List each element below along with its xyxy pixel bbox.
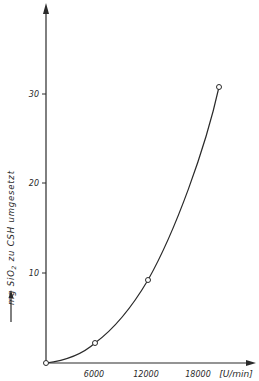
data-point [93,341,98,346]
x-ticks: 6000 12000 18000 [U/min] [84,369,253,379]
chart: 30 20 10 6000 12000 18000 [U/min] mg SiO… [0,0,259,381]
x-axis-label: [U/min] [219,369,253,379]
x-axis-arrow-icon [246,360,256,366]
y-tick-label: 30 [29,90,39,99]
y-tick-label: 10 [29,269,39,278]
y-tick-label: 20 [29,179,39,188]
y-ticks: 30 20 10 [29,90,46,278]
x-tick-label: 18000 [185,370,210,379]
y-axis-label-group: mg SiO2 zu CSH umgesetzt [6,170,17,305]
x-tick-label: 12000 [133,370,158,379]
y-axis-label: mg SiO2 zu CSH umgesetzt [6,170,17,305]
x-tick-label: 6000 [84,370,104,379]
data-markers [44,85,222,366]
y-axis-arrow-icon [43,3,49,14]
data-point [44,361,49,366]
data-point [217,85,222,90]
data-point [146,278,151,283]
chart-svg: 30 20 10 6000 12000 18000 [U/min] mg SiO… [0,0,259,381]
data-curve [46,87,219,363]
